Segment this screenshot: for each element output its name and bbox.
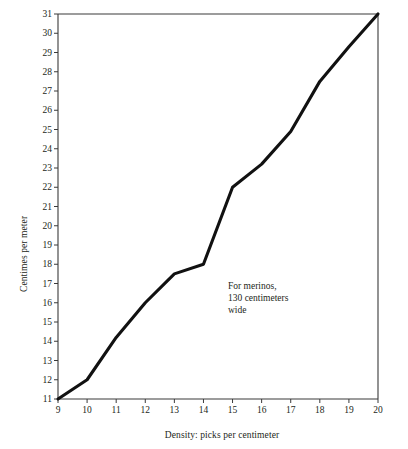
y-axis-tick-label: 14 — [32, 337, 52, 347]
y-axis-tick-label: 24 — [32, 144, 52, 154]
y-axis-tick-label: 27 — [32, 87, 52, 97]
y-axis-ticks — [54, 14, 58, 399]
y-axis-tick-label: 23 — [32, 164, 52, 174]
chart-annotation: For merinos, 130 centimeters wide — [228, 280, 288, 317]
data-series-line — [58, 14, 378, 399]
x-axis-tick-label: 15 — [221, 406, 245, 416]
y-axis-tick-label: 13 — [32, 356, 52, 366]
x-axis-tick-label: 12 — [133, 406, 157, 416]
y-axis-tick-labels: 1112131415161718192021222324252627282930… — [30, 0, 52, 449]
chart-figure: Centimes per meter Density: picks per ce… — [0, 0, 408, 449]
x-axis-tick-label: 18 — [308, 406, 332, 416]
y-axis-tick-label: 28 — [32, 67, 52, 77]
x-axis-tick-label: 14 — [191, 406, 215, 416]
x-axis-tick-label: 10 — [75, 406, 99, 416]
y-axis-tick-label: 15 — [32, 318, 52, 328]
y-axis-tick-label: 19 — [32, 241, 52, 251]
y-axis-tick-label: 21 — [32, 202, 52, 212]
x-axis-tick-label: 17 — [279, 406, 303, 416]
y-axis-tick-label: 20 — [32, 221, 52, 231]
x-axis-tick-label: 11 — [104, 406, 128, 416]
x-axis-tick-label: 20 — [366, 406, 390, 416]
x-axis-tick-label: 19 — [337, 406, 361, 416]
y-axis-tick-label: 17 — [32, 279, 52, 289]
x-axis-title: Density: picks per centimeter — [0, 430, 408, 440]
y-axis-tick-label: 22 — [32, 183, 52, 193]
x-axis-ticks — [58, 399, 378, 403]
x-axis-tick-label: 13 — [162, 406, 186, 416]
y-axis-tick-label: 26 — [32, 106, 52, 116]
x-axis-tick-label: 16 — [250, 406, 274, 416]
y-axis-tick-label: 25 — [32, 125, 52, 135]
x-axis-tick-label: 9 — [46, 406, 70, 416]
y-axis-tick-label: 11 — [32, 395, 52, 405]
y-axis-tick-label: 16 — [32, 298, 52, 308]
plot-area — [0, 0, 408, 449]
x-axis-tick-labels: 91011121314151617181920 — [0, 406, 408, 426]
y-axis-title: Centimes per meter — [19, 216, 29, 292]
y-axis-tick-label: 31 — [32, 10, 52, 20]
y-axis-tick-label: 29 — [32, 48, 52, 58]
y-axis-tick-label: 12 — [32, 375, 52, 385]
y-axis-tick-label: 18 — [32, 260, 52, 270]
y-axis-tick-label: 30 — [32, 29, 52, 39]
